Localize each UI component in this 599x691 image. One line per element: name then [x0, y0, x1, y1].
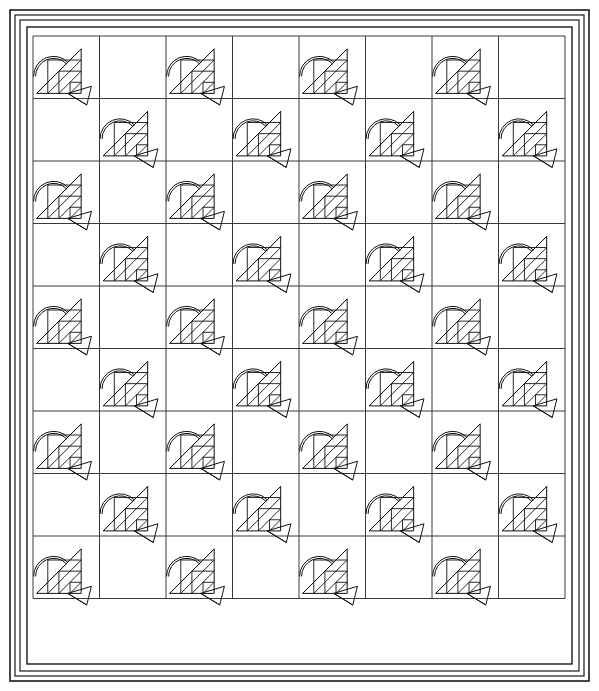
quilt-diagram-canvas [0, 0, 599, 691]
quilt-pattern-drawing [0, 0, 599, 691]
